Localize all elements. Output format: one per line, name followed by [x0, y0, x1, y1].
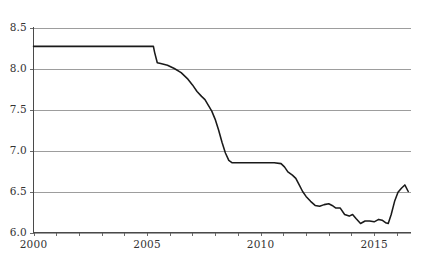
y-tick-label: 8.0 [10, 62, 27, 74]
x-tick-label: 2000 [20, 238, 48, 250]
data-series-group [34, 46, 409, 223]
x-tick-label: 2010 [247, 238, 275, 250]
y-tick-label: 7.5 [10, 103, 27, 115]
y-tick-label: 6.0 [10, 226, 27, 238]
chart-canvas: 6.06.57.07.58.08.5 2000200520102015 [0, 0, 422, 267]
y-tick-label: 8.5 [10, 21, 27, 33]
x-tick-label: 2005 [133, 238, 161, 250]
tick-marks-group [30, 29, 398, 237]
x-tick-label: 2015 [360, 238, 388, 250]
line-chart: 6.06.57.07.58.08.5 2000200520102015 [0, 0, 422, 267]
gridlines-group [34, 29, 411, 234]
data-line-series-1 [34, 46, 409, 223]
x-axis-labels-group: 2000200520102015 [20, 238, 388, 250]
y-axis-labels-group: 6.06.57.07.58.08.5 [10, 21, 27, 238]
y-tick-label: 7.0 [10, 144, 27, 156]
axis-lines-group [34, 27, 411, 233]
y-tick-label: 6.5 [10, 185, 27, 197]
